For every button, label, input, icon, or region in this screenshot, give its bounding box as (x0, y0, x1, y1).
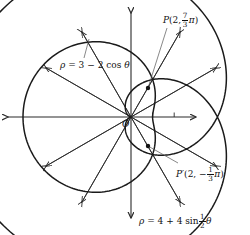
limacon-rho: ρ (60, 60, 65, 70)
point-p-marker (146, 86, 150, 90)
point-p-prime-close-paren: ) (220, 169, 224, 179)
limacon-cos: cos (106, 60, 121, 70)
cardioid-a: 4 (158, 216, 164, 226)
polar-graph-figure: O ρ = 3 − 2 cos θ ρ = 4 + 4 sin12θ P(2,7… (0, 0, 250, 235)
limacon-a: 3 (79, 60, 85, 70)
point-p-prime-sign: − (199, 169, 207, 179)
point-p-prime-angle-fraction: 13 (207, 166, 214, 182)
cardioid-theta: θ (206, 216, 211, 226)
point-p-prime-comma: , (193, 169, 196, 179)
polar-plot-canvas (0, 0, 250, 235)
origin-label: O (122, 120, 129, 129)
point-p-prime-marker (146, 144, 150, 148)
point-p-prime-angle-denominator: 3 (207, 175, 214, 183)
point-p-close-paren: ) (195, 15, 199, 25)
cardioid-equals: = (147, 216, 155, 226)
cardioid-frac-denominator: 2 (199, 222, 206, 230)
cardioid-sin: sin (185, 216, 198, 226)
limacon-equals: = (68, 60, 76, 70)
limacon-minus: − (87, 60, 95, 70)
cardioid-rho: ρ (139, 216, 144, 226)
cardioid-plus: + (166, 216, 174, 226)
cardioid-half-fraction: 12 (199, 213, 206, 229)
axes-group (8, 13, 196, 218)
cardioid-b: 4 (177, 216, 183, 226)
limacon-theta: θ (124, 60, 129, 70)
point-p-prime-label: P′(2, −13π) (176, 166, 224, 182)
limacon-b: 2 (98, 60, 104, 70)
limacon-equation-label: ρ = 3 − 2 cos θ (60, 61, 130, 70)
point-p-angle-fraction: 73 (182, 12, 189, 28)
point-p-angle-denominator: 3 (182, 21, 189, 29)
cardioid-equation-label: ρ = 4 + 4 sin12θ (139, 213, 212, 229)
point-p-label: P(2,73π) (163, 12, 198, 28)
axis-ticks (153, 113, 175, 118)
